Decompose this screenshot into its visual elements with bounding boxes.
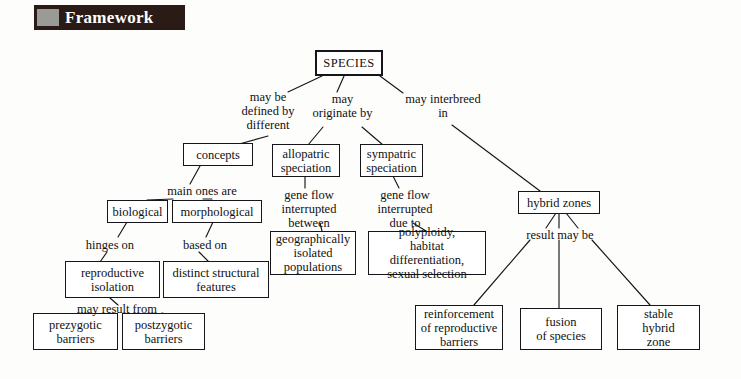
node-morphological[interactable]: morphological	[172, 200, 262, 223]
link-sympatric-to-geneflow2-label	[393, 176, 399, 188]
link-interbreed-label-to-hybrid-zones	[452, 125, 540, 191]
concept-map-page: Framework	[0, 0, 741, 379]
node-biological[interactable]: biological	[107, 200, 168, 223]
link-species-to-interbreed-label	[380, 76, 403, 93]
node-postzygotic-barriers[interactable]: postzygotic barriers	[122, 313, 205, 350]
link-species-to-originate-label	[337, 76, 344, 92]
edge-label-hinges-on: hinges on	[72, 238, 148, 252]
edge-label-gene-flow-interrupted-due-to: gene flow interrupted due to	[368, 188, 442, 230]
node-hybrid-zones[interactable]: hybrid zones	[518, 191, 600, 214]
edge-label-result-may-be: result may be	[512, 228, 608, 242]
edge-label-main-ones-are: main ones are	[156, 184, 248, 198]
link-biological-to-hinges-label	[118, 222, 127, 237]
node-geographically-isolated-populations[interactable]: geographically isolated populations	[270, 231, 356, 275]
node-concepts[interactable]: concepts	[183, 143, 253, 166]
node-polyploidy-habitat-sexual[interactable]: polyploidy, habitat differentiation, sex…	[368, 231, 486, 275]
edge-label-based-on: based on	[170, 238, 240, 252]
link-hybrid-to-resultmaybe-label	[546, 213, 556, 228]
header-swatch-icon	[37, 9, 59, 26]
section-header-banner: Framework	[34, 5, 185, 30]
edge-label-may-interbreed-in: may interbreed in	[388, 92, 498, 120]
node-reproductive-isolation[interactable]: reproductive isolation	[65, 261, 160, 298]
node-reinforcement-of-reproductive-barriers[interactable]: reinforcement of reproductive barriers	[415, 305, 503, 350]
node-fusion-of-species[interactable]: fusion of species	[520, 308, 602, 350]
node-sympatric-speciation[interactable]: sympatric speciation	[360, 144, 423, 177]
edge-label-may-originate-by: may originate by	[300, 92, 385, 120]
link-morphological-to-basedon-label	[206, 222, 213, 237]
page-title: Framework	[65, 9, 154, 26]
node-distinct-structural-features[interactable]: distinct structural features	[163, 261, 269, 298]
node-species[interactable]: SPECIES	[315, 50, 383, 76]
node-allopatric-speciation[interactable]: allopatric speciation	[272, 144, 340, 177]
node-prezygotic-barriers[interactable]: prezygotic barriers	[33, 313, 118, 350]
link-concepts-to-mainones-label	[190, 166, 200, 184]
edge-label-gene-flow-interrupted-between: gene flow interrupted between	[272, 188, 346, 230]
edge-label-may-result-from: may result from	[64, 302, 170, 316]
node-stable-hybrid-zone[interactable]: stable hybrid zone	[617, 305, 700, 350]
link-resultmaybe-to-stable	[592, 240, 650, 305]
link-originate-label-to-sympatric	[362, 127, 383, 145]
link-hybrid-to-resultmaybe-right	[566, 213, 578, 228]
